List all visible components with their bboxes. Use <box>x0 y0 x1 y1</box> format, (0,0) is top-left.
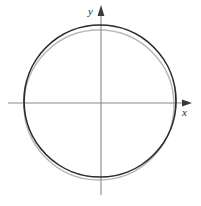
y-axis-label: y <box>88 6 93 17</box>
figure-canvas: y x <box>0 0 201 206</box>
circle-axes-diagram <box>0 0 201 206</box>
x-axis-label: x <box>182 107 187 118</box>
